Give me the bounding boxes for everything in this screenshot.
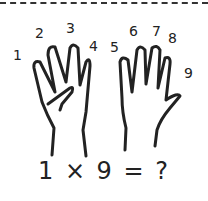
finger-label-2: 2 <box>35 26 44 40</box>
finger-label-7: 7 <box>152 24 161 38</box>
finger-label-6: 6 <box>129 24 138 38</box>
equation: 1 × 9 = ? <box>0 158 208 184</box>
right-hand-icon <box>120 46 180 150</box>
finger-label-1: 1 <box>13 48 22 62</box>
finger-label-9: 9 <box>184 66 193 80</box>
finger-label-5: 5 <box>110 40 119 54</box>
finger-label-3: 3 <box>66 21 75 35</box>
left-hand-icon <box>34 45 90 156</box>
finger-label-4: 4 <box>89 39 98 53</box>
finger-label-8: 8 <box>168 31 177 45</box>
